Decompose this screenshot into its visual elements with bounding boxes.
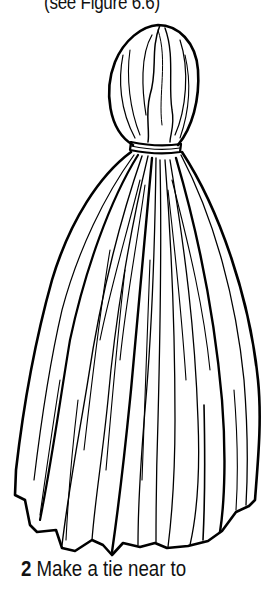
step-text: Make a tie near to	[37, 556, 187, 581]
tassel-skirt	[15, 152, 260, 555]
tassel-illustration	[0, 0, 276, 592]
tassel-head	[109, 25, 198, 145]
step-number: 2	[21, 556, 31, 581]
instruction-caption: 2Make a tie near to	[21, 556, 186, 582]
tie-band	[130, 142, 181, 153]
